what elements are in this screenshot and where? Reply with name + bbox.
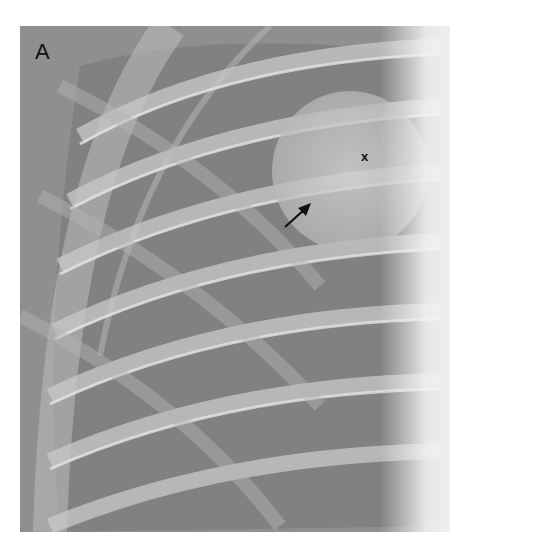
lesion-marker: x — [361, 149, 368, 164]
panel-label: A — [35, 39, 50, 65]
radiograph-image — [20, 26, 512, 532]
radiograph-panel: A x — [20, 26, 512, 532]
